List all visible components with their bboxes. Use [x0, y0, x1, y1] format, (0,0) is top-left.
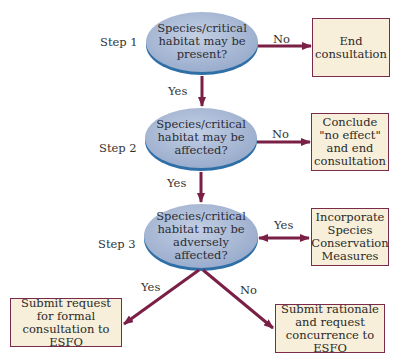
decision-step-3: Species/critical habitat may be adversel…: [158, 205, 244, 267]
step-2-label: Step 2: [99, 141, 137, 155]
step-3-label: Step 3: [98, 237, 136, 251]
edge-label-s1-no: No: [273, 32, 290, 46]
decision-step-1: Species/critical habitat may be present?: [156, 17, 248, 65]
step-1-label: Step 1: [100, 35, 138, 49]
outcome-end-consultation: End consultation: [312, 18, 390, 77]
arrow-s3-yes-down: [124, 270, 199, 324]
edge-label-s3-no: No: [240, 283, 257, 297]
edge-label-s1-yes: Yes: [168, 84, 187, 98]
outcome-conservation-measures: Incorporate Species Conservation Measure…: [311, 208, 389, 266]
outcome-formal-consultation: Submit request for formal consultation t…: [10, 298, 122, 347]
decision-step-2: Species/critical habitat may be affected…: [155, 113, 247, 161]
edge-label-s2-no: No: [272, 127, 289, 141]
edge-label-s3-yes-down: Yes: [141, 280, 160, 294]
outcome-no-effect: Conclude "no effect" and end consultatio…: [311, 113, 389, 171]
edge-label-s3-yes-right: Yes: [274, 218, 293, 232]
edge-label-s2-yes: Yes: [167, 176, 186, 190]
outcome-request-concurrence: Submit rationale and request concurrence…: [275, 304, 385, 353]
arrow-s3-no: [203, 270, 273, 328]
